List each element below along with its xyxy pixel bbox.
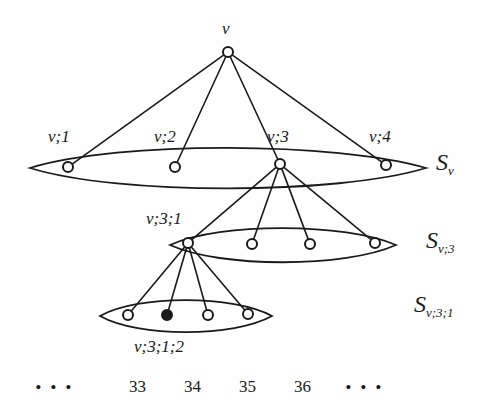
set-label-sv: Sv — [436, 150, 454, 177]
graph-node-v311 — [123, 310, 133, 320]
graph-node-v — [223, 47, 233, 57]
graph-node-v313 — [203, 310, 213, 320]
set-label-sv3-base: S — [426, 227, 438, 253]
node-label-v2: v;2 — [154, 128, 176, 145]
node-label-v1: v;1 — [48, 128, 70, 145]
graph-node-v31 — [183, 238, 193, 248]
graph-node-v1 — [63, 162, 73, 172]
number-36: 36 — [275, 377, 330, 397]
graph-node-v4 — [381, 160, 391, 170]
number-35: 35 — [220, 377, 275, 397]
set-label-sv31-sub: v;3;1 — [426, 305, 453, 320]
number-34: 34 — [165, 377, 220, 397]
set-label-sv31-base: S — [414, 291, 426, 317]
number-33: 33 — [110, 377, 165, 397]
set-label-sv-sub: v — [448, 163, 454, 178]
graph-node-v3 — [275, 159, 285, 169]
graph-node-v34 — [370, 238, 380, 248]
node-label-root: v — [222, 20, 230, 37]
graph-node-v2 — [170, 162, 180, 172]
graph-node-v33 — [305, 239, 315, 249]
set-ellipse-Sv — [30, 148, 426, 189]
set-label-sv31: Sv;3;1 — [414, 292, 453, 319]
edge-v-v2 — [177, 57, 225, 162]
node-label-v4: v;4 — [369, 128, 391, 145]
node-label-v3: v;3 — [267, 128, 289, 145]
figure-canvas: v v;1 v;2 v;3 v;4 v;3;1 v;3;1;2 Sv Sv;3 … — [0, 0, 485, 410]
node-label-v31: v;3;1 — [146, 210, 182, 227]
set-ellipses-layer — [30, 148, 426, 332]
set-label-sv3: Sv;3 — [426, 228, 455, 255]
set-label-sv-base: S — [436, 149, 448, 175]
bottom-number-row: • • • 33 34 35 36 • • • — [0, 372, 485, 402]
graph-node-v32 — [247, 239, 257, 249]
graph-node-v312-filled — [162, 310, 172, 320]
right-ellipsis: • • • — [330, 379, 400, 396]
set-label-sv3-sub: v;3 — [438, 241, 455, 256]
tree-diagram-svg — [0, 0, 485, 410]
graph-node-v314 — [243, 309, 253, 319]
node-label-v312: v;3;1;2 — [134, 338, 184, 355]
left-ellipsis: • • • — [0, 379, 110, 396]
